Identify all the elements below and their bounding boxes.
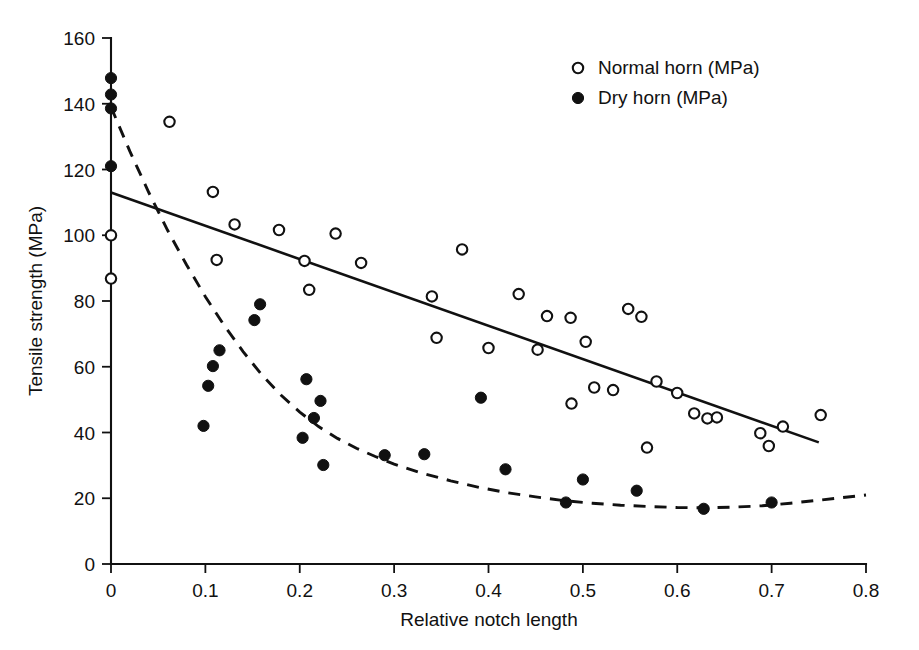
data-point-open <box>356 258 366 268</box>
normal-horn-linear-fit <box>111 193 819 443</box>
data-point-filled <box>379 450 390 461</box>
data-point-open <box>651 376 661 386</box>
series-normal-horn-mpa <box>106 117 826 453</box>
data-point-filled <box>766 497 777 508</box>
data-point-open <box>427 291 437 301</box>
x-tick-label: 0.7 <box>758 580 784 601</box>
data-point-open <box>755 428 765 438</box>
data-point-open <box>764 441 774 451</box>
dry-horn-curve-fit <box>111 107 866 508</box>
data-point-open <box>542 311 552 321</box>
data-point-filled <box>297 432 308 443</box>
series-dry-horn-mpa <box>105 73 777 515</box>
y-tick-label: 60 <box>74 357 95 378</box>
data-point-open <box>778 421 788 431</box>
x-tick-label: 0.6 <box>664 580 690 601</box>
data-point-open <box>565 313 575 323</box>
y-tick-label: 20 <box>74 488 95 509</box>
legend-marker-open-circle <box>573 63 583 73</box>
y-axis-tick-labels: 020406080100120140160 <box>63 28 95 575</box>
axes <box>111 38 866 564</box>
data-point-open <box>672 388 682 398</box>
chart-figure: 020406080100120140160 00.10.20.30.40.50.… <box>0 0 919 650</box>
data-point-open <box>532 345 542 355</box>
data-point-open <box>608 385 618 395</box>
data-series <box>105 73 826 515</box>
x-tick-label: 0.3 <box>381 580 407 601</box>
data-point-filled <box>419 449 430 460</box>
data-point-open <box>589 382 599 392</box>
data-point-filled <box>475 392 486 403</box>
fit-curves <box>111 107 866 508</box>
y-tick-label: 0 <box>84 554 95 575</box>
x-tick-label: 0.5 <box>570 580 596 601</box>
data-point-open <box>457 244 467 254</box>
x-tick-label: 0.2 <box>287 580 313 601</box>
data-point-open <box>689 408 699 418</box>
tick-marks <box>102 38 866 573</box>
y-tick-label: 40 <box>74 423 95 444</box>
data-point-open <box>164 117 174 127</box>
y-axis-title: Tensile strength (MPa) <box>25 206 46 396</box>
legend-item: Dry horn (MPa) <box>572 87 727 108</box>
legend: Normal horn (MPa)Dry horn (MPa) <box>572 57 759 108</box>
data-point-open <box>712 412 722 422</box>
data-point-filled <box>105 161 116 172</box>
data-point-open <box>566 398 576 408</box>
data-point-filled <box>560 497 571 508</box>
data-point-open <box>229 219 239 229</box>
legend-label: Normal horn (MPa) <box>598 57 760 78</box>
data-point-open <box>212 255 222 265</box>
data-point-filled <box>105 73 116 84</box>
data-point-open <box>642 442 652 452</box>
y-tick-label: 160 <box>63 28 95 49</box>
x-tick-label: 0.1 <box>192 580 218 601</box>
data-point-filled <box>214 345 225 356</box>
data-point-open <box>816 410 826 420</box>
data-point-open <box>106 230 116 240</box>
data-point-filled <box>631 485 642 496</box>
data-point-filled <box>105 103 116 114</box>
legend-item: Normal horn (MPa) <box>573 57 760 78</box>
data-point-open <box>431 333 441 343</box>
data-point-filled <box>315 395 326 406</box>
x-axis-title: Relative notch length <box>400 609 577 630</box>
x-axis-tick-labels: 00.10.20.30.40.50.60.70.8 <box>106 580 880 601</box>
data-point-filled <box>255 299 266 310</box>
data-point-open <box>581 337 591 347</box>
tensile-strength-vs-notch-length-scatter-plot: 020406080100120140160 00.10.20.30.40.50.… <box>0 0 919 650</box>
data-point-open <box>208 187 218 197</box>
x-tick-label: 0.8 <box>853 580 879 601</box>
data-point-filled <box>500 464 511 475</box>
data-point-open <box>623 304 633 314</box>
data-point-filled <box>318 459 329 470</box>
data-point-filled <box>198 420 209 431</box>
data-point-open <box>514 289 524 299</box>
data-point-open <box>106 273 116 283</box>
data-point-open <box>299 256 309 266</box>
data-point-filled <box>308 412 319 423</box>
y-tick-label: 100 <box>63 225 95 246</box>
y-tick-label: 140 <box>63 94 95 115</box>
data-point-open <box>636 312 646 322</box>
data-point-filled <box>105 89 116 100</box>
data-point-filled <box>698 503 709 514</box>
legend-label: Dry horn (MPa) <box>598 87 728 108</box>
x-tick-label: 0 <box>106 580 117 601</box>
data-point-open <box>304 285 314 295</box>
x-tick-label: 0.4 <box>475 580 502 601</box>
data-point-open <box>274 225 284 235</box>
data-point-filled <box>301 374 312 385</box>
data-point-filled <box>249 315 260 326</box>
y-tick-label: 80 <box>74 291 95 312</box>
data-point-filled <box>577 474 588 485</box>
y-tick-label: 120 <box>63 160 95 181</box>
data-point-filled <box>203 380 214 391</box>
legend-marker-filled-circle <box>572 92 583 103</box>
data-point-open <box>483 343 493 353</box>
data-point-open <box>330 228 340 238</box>
data-point-filled <box>207 361 218 372</box>
